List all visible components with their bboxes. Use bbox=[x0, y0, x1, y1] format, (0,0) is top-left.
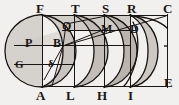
label-point-S: S bbox=[102, 2, 109, 15]
label-point-F: F bbox=[36, 2, 44, 15]
label-point-A: A bbox=[36, 89, 45, 102]
label-point-delta: δ bbox=[48, 58, 54, 69]
label-point-G: G bbox=[15, 59, 24, 70]
geometry-figure: F T S R C A L H I E P B Q M D G δ bbox=[0, 0, 179, 105]
label-point-M: M bbox=[101, 23, 112, 35]
label-point-D: D bbox=[130, 23, 139, 35]
label-point-T: T bbox=[71, 2, 80, 15]
shade-region-P bbox=[6, 15, 42, 86]
label-point-P: P bbox=[25, 37, 32, 49]
label-point-L: L bbox=[66, 89, 75, 102]
label-point-B: B bbox=[53, 37, 61, 49]
label-point-C: C bbox=[163, 2, 172, 15]
figure-canvas bbox=[0, 0, 179, 105]
label-point-Q: Q bbox=[62, 20, 71, 32]
label-point-R: R bbox=[127, 2, 136, 15]
label-point-E: E bbox=[164, 76, 173, 89]
label-point-I: I bbox=[128, 89, 133, 102]
label-point-H: H bbox=[97, 89, 107, 102]
